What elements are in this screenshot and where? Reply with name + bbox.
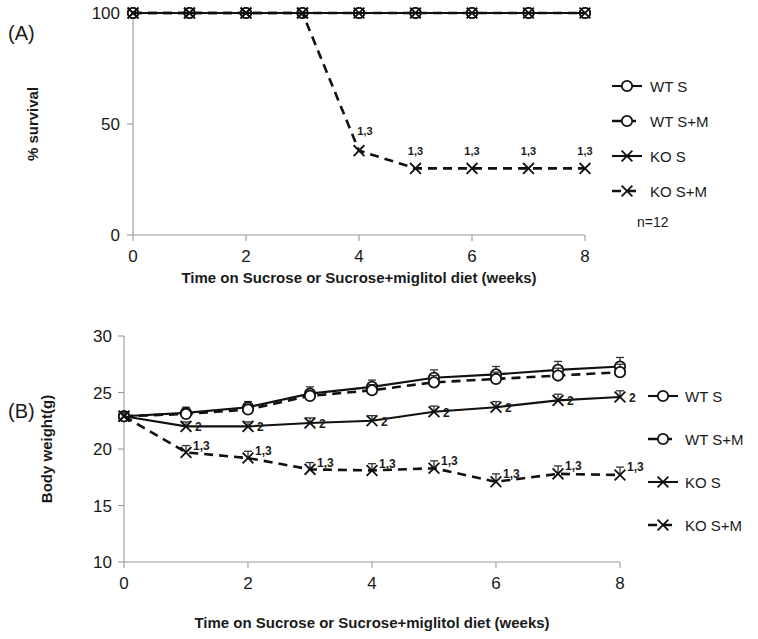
series-line (133, 13, 585, 168)
legend-item[interactable]: KO S+M (612, 183, 707, 200)
legend-item[interactable]: KO S (612, 148, 686, 165)
y-axis-title: % survival (24, 87, 41, 161)
legend-item[interactable]: WT S+M (612, 113, 708, 130)
figure-container: (A) (B) 05010002468% survivalTime on Suc… (0, 0, 758, 639)
legend-label: KO S (650, 148, 686, 165)
significance-annotation: 1,3 (357, 125, 372, 137)
x-tick-label: 0 (128, 247, 137, 266)
series-ko-s-m: 1,31,31,31,31,3 (128, 8, 593, 174)
data-point-circle (622, 116, 632, 126)
x-tick-label: 8 (580, 247, 589, 266)
legend-label: WT S+M (650, 113, 708, 130)
y-tick-label: 0 (111, 226, 120, 245)
y-axis-ticks: 050100 (92, 4, 133, 245)
significance-annotation: 1,3 (577, 145, 592, 157)
legend-label: WT S (650, 78, 687, 95)
x-tick-label: 2 (241, 247, 250, 266)
x-tick-label: 4 (354, 247, 363, 266)
significance-annotation: 1,3 (464, 145, 479, 157)
y-tick-label: 50 (101, 115, 120, 134)
legend-item[interactable]: WT S (612, 78, 687, 95)
legend: WT SWT S+MKO SKO S+M (612, 78, 708, 200)
x-tick-label: 6 (467, 247, 476, 266)
sample-size-note: n=12 (637, 214, 669, 230)
significance-annotation: 1,3 (408, 145, 423, 157)
survival-chart-panel-a: 05010002468% survivalTime on Sucrose or … (0, 0, 758, 639)
y-tick-label: 100 (92, 4, 120, 23)
x-axis-title: Time on Sucrose or Sucrose+miglitol diet… (181, 269, 536, 286)
data-point-circle (622, 81, 632, 91)
significance-annotation: 1,3 (521, 145, 536, 157)
x-axis-ticks: 02468 (128, 235, 589, 266)
legend-label: KO S+M (650, 183, 707, 200)
